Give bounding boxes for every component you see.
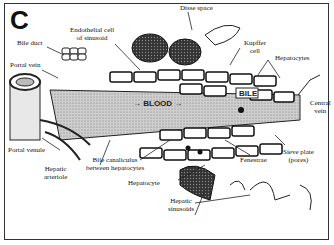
label-fenestrae: Fenestrae [240,157,267,165]
label-sieve-plate: Sieve plate(pores) [283,149,314,164]
bile-duct-shape [62,48,86,60]
label-hepatocyte: Hepatocyte [128,180,160,188]
label-bile-duct: Bile duct [17,40,42,48]
portal-vein-shape [10,74,40,140]
label-hepatic-sinusoids: Hepaticsinusoids [168,198,194,213]
panel-letter: C [10,5,29,36]
bile-label: BILE [239,89,258,98]
label-kupffer-cell: Kupffercell [244,40,266,55]
hepatocytes-lower [140,126,282,160]
label-disse-space: Disse space [180,5,213,13]
label-hepatocytes: Hepatocytes [275,55,310,63]
label-bile-canaliculus: Bile canaliculusbetween hepatocytes [86,157,144,172]
label-portal-vein: Portal vein [10,62,41,70]
label-endothelial-cell: Endothelial cellof sinusoid [70,27,114,42]
liver-lobule-illustration: → BLOOD → BILE [0,0,334,245]
label-portal-venule: Portal venule [8,147,45,155]
label-hepatic-arteriole: Hepaticarteriole [44,166,67,181]
blood-label: → BLOOD → [133,99,182,108]
label-central-vein: Centralvein [310,100,331,115]
